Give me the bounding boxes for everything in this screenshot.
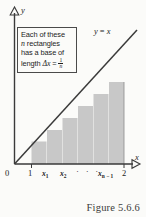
callout-line-1: Each of these: [21, 30, 74, 39]
callout-fraction: 1n: [58, 58, 63, 70]
rectangle-4: [78, 106, 93, 164]
x-axis-label: x: [135, 152, 139, 162]
tick-label-x2-subscript: 2: [64, 173, 67, 179]
tick-label-x2: x2: [60, 169, 67, 179]
line-equation-label: y = x: [94, 27, 110, 36]
callout-line-4-eq: =: [50, 59, 58, 68]
callout-line-3: has a base of: [21, 48, 74, 57]
rectangle-2: [47, 130, 62, 164]
callout-line-2-text: rectangles: [25, 39, 60, 48]
y-axis-label: y: [21, 5, 25, 15]
tick-label-x1: x1: [42, 169, 49, 179]
line-equation-eq: =: [98, 27, 107, 36]
tick-label-xn-1: xn − 1: [98, 169, 113, 179]
figure-caption: Figure 5.6.6: [87, 202, 140, 213]
callout-box: Each of these n rectangles has a base of…: [17, 27, 77, 73]
tick-label-1: 1: [28, 168, 32, 178]
tick-label-0: 0: [5, 168, 9, 178]
tick-label-xn-1-subscript: n − 1: [102, 173, 113, 179]
figure-container: Each of these n rectangles has a base of…: [0, 0, 146, 217]
callout-line-4-pre: length: [21, 59, 43, 68]
rectangle-6: [109, 82, 124, 164]
line-equation-x: x: [107, 27, 111, 36]
rectangle-5: [94, 94, 109, 164]
callout-line-2: n rectangles: [21, 39, 74, 48]
rectangle-1: [32, 142, 47, 165]
fraction-denominator: n: [58, 63, 63, 70]
tick-label-2: 2: [122, 168, 126, 178]
callout-line-4: length Δx = 1n: [21, 58, 74, 70]
tick-label-x1-subscript: 1: [46, 173, 49, 179]
tick-label-ellipsis: · · ·: [76, 166, 101, 176]
rectangle-3: [63, 118, 78, 164]
